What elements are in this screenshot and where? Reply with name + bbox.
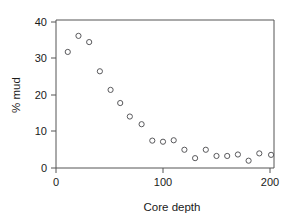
x-tick-label: 0: [53, 176, 59, 188]
plot-frame: [56, 20, 274, 168]
x-tick-label: 200: [261, 176, 279, 188]
data-point: [257, 151, 262, 156]
data-point: [246, 158, 251, 163]
y-tick-label: 0: [41, 162, 47, 174]
data-point: [97, 69, 102, 74]
data-point: [127, 114, 132, 119]
y-axis-tick-labels: 40 30 20 10 0: [35, 16, 47, 174]
data-point: [214, 153, 219, 158]
data-point: [87, 39, 92, 44]
y-tick-label: 40: [35, 16, 47, 28]
x-axis-tick-labels: 0 100 200: [53, 176, 279, 188]
x-axis-ticks: [56, 168, 270, 173]
x-axis-title: Core depth: [144, 201, 201, 213]
data-point: [65, 49, 70, 54]
y-axis-title: % mud: [10, 77, 22, 113]
y-axis-ticks: [51, 22, 56, 168]
x-tick-label: 100: [154, 176, 172, 188]
y-tick-label: 30: [35, 52, 47, 64]
data-point: [150, 138, 155, 143]
data-point: [182, 147, 187, 152]
data-point: [268, 152, 273, 157]
data-point: [76, 33, 81, 38]
data-point: [225, 153, 230, 158]
data-point-group: [65, 33, 274, 163]
y-tick-label: 20: [35, 89, 47, 101]
data-point: [193, 156, 198, 161]
data-point: [118, 100, 123, 105]
data-point: [108, 87, 113, 92]
y-tick-label: 10: [35, 125, 47, 137]
data-point: [160, 139, 165, 144]
data-point: [139, 122, 144, 127]
data-point: [203, 147, 208, 152]
chart-figure: 40 30 20 10 0 0 100 200 Core depth % mud: [0, 0, 292, 221]
data-point: [171, 138, 176, 143]
data-point: [235, 152, 240, 157]
scatter-plot: 40 30 20 10 0 0 100 200 Core depth % mud: [0, 0, 292, 221]
